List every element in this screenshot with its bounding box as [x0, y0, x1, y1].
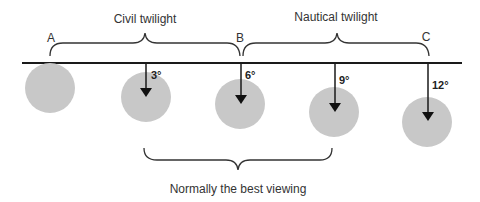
- sun-circle-12: [402, 97, 452, 147]
- sun-circle-6: [215, 79, 265, 129]
- point-a-label: A: [47, 31, 55, 45]
- nautical-twilight-brace: [243, 33, 429, 56]
- best-viewing-label: Normally the best viewing: [170, 182, 307, 196]
- sun-circle-0: [25, 63, 75, 113]
- best-viewing-brace: [144, 148, 332, 170]
- twilight-diagram: 3° 6° 9° 12° Civil twilight Nautical twi…: [0, 0, 480, 202]
- point-c-label: C: [422, 30, 431, 44]
- degree-label-3: 3°: [151, 69, 162, 81]
- point-b-label: B: [236, 31, 244, 45]
- civil-twilight-label: Civil twilight: [114, 12, 177, 26]
- degree-label-6: 6°: [245, 69, 256, 81]
- degree-label-12: 12°: [432, 79, 449, 91]
- nautical-twilight-label: Nautical twilight: [294, 10, 378, 24]
- sun-circle-9: [309, 87, 359, 137]
- civil-twilight-brace: [50, 33, 240, 56]
- degree-label-9: 9°: [339, 74, 350, 86]
- arrow-12: [422, 64, 434, 121]
